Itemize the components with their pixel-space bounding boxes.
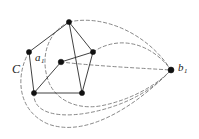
solid-edge-left-bottomleft bbox=[29, 52, 34, 93]
label-vertex-b1-sub: 1 bbox=[184, 67, 187, 74]
label-cycle-c: C bbox=[12, 63, 20, 77]
label-vertex-a1-base: a bbox=[35, 51, 41, 63]
label-vertex-a1-sub: 1 bbox=[41, 57, 44, 64]
dashed-edge-bottomleft-to-b1 bbox=[34, 70, 171, 115]
dashed-edge-inner-loop bbox=[45, 22, 171, 107]
dashed-edges-group bbox=[21, 20, 171, 127]
vertex-center-a1 bbox=[58, 59, 64, 65]
solid-edge-right-bottomright bbox=[82, 52, 93, 93]
vertex-bottom-right bbox=[79, 90, 84, 95]
graph-canvas bbox=[0, 0, 199, 139]
label-cycle-c-base: C bbox=[12, 62, 20, 76]
vertex-bottom-left bbox=[31, 90, 36, 95]
label-vertex-b1-base: b bbox=[178, 61, 184, 73]
solid-edge-center-bottomleft bbox=[34, 62, 61, 93]
vertex-left bbox=[26, 49, 31, 54]
solid-edge-top-left bbox=[29, 22, 69, 52]
label-vertex-a1: a1 bbox=[35, 52, 44, 65]
vertex-right bbox=[90, 49, 95, 54]
vertex-top bbox=[66, 19, 71, 24]
label-vertex-b1: b1 bbox=[178, 62, 187, 75]
vertex-b1 bbox=[168, 67, 174, 73]
vertices-group bbox=[26, 19, 174, 95]
solid-edge-top-right bbox=[69, 22, 93, 52]
dashed-edge-top-to-b1 bbox=[69, 20, 171, 70]
graph-figure: C a1 b1 bbox=[0, 0, 199, 139]
solid-edge-right-center bbox=[61, 52, 93, 62]
